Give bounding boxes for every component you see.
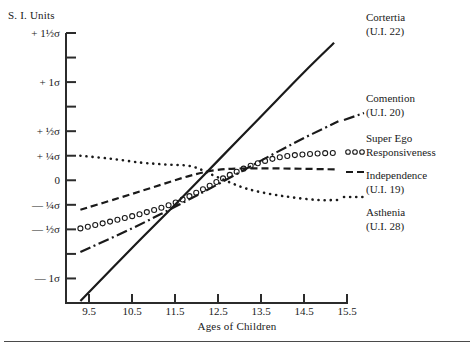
chart-figure: S. I. Units + 1½σ+ 1σ+ ½σ+ ¼σ0— ¼σ— ½σ— …	[0, 0, 474, 346]
legend-label-cortertia-line1: Cortertia	[366, 10, 405, 24]
legend-item-cortertia: Cortertia (U.I. 22)	[366, 10, 405, 38]
legend-label-comention-line1: Comention	[366, 91, 415, 105]
legend-label-comention-line2: (U.I. 20)	[366, 105, 415, 119]
x-tick-label: 13.5	[251, 305, 270, 317]
y-tick-label: + ¼σ	[0, 150, 60, 162]
legend-item-asthenia: Asthenia (U.I. 28)	[366, 205, 405, 233]
legend-label-cortertia-line2: (U.I. 22)	[366, 24, 405, 38]
legend-label-asthenia-line1: Asthenia	[366, 205, 405, 219]
legend-label-superego-line1: Super Ego	[366, 131, 436, 145]
y-tick-label: + 1½σ	[0, 27, 60, 39]
series-comention	[80, 121, 338, 252]
x-axis-title: Ages of Children	[0, 320, 474, 332]
data-curves-group	[78, 43, 339, 301]
y-tick-label: — ¼σ	[0, 199, 60, 211]
y-tick-label: + 1σ	[0, 76, 60, 88]
x-tick-label: 12.5	[208, 305, 227, 317]
legend-item-independence: Independence (U.I. 19)	[366, 168, 427, 196]
y-tick-label: — ½σ	[0, 223, 60, 235]
x-tick-label: 10.5	[122, 305, 141, 317]
y-tick-label: 0	[0, 174, 60, 186]
x-tick-label: 14.5	[294, 305, 313, 317]
bottom-divider-rule	[4, 341, 470, 342]
x-tick-label: 9.5	[82, 305, 96, 317]
series-asthenia	[80, 156, 338, 200]
legend-connectors-group	[344, 113, 364, 197]
legend-item-superego: Super Ego Responsiveness	[366, 131, 436, 159]
y-tick-label: — 1σ	[0, 272, 60, 284]
legend-item-comention: Comention (U.I. 20)	[366, 91, 415, 119]
legend-label-independence-line1: Independence	[366, 168, 427, 182]
x-tick-label: 15.5	[337, 305, 356, 317]
x-tick-label: 11.5	[166, 305, 185, 317]
y-tick-label: + ½σ	[0, 125, 60, 137]
legend-label-superego-line2: Responsiveness	[366, 145, 436, 159]
legend-label-independence-line2: (U.I. 19)	[366, 182, 427, 196]
legend-label-asthenia-line2: (U.I. 28)	[366, 219, 405, 233]
